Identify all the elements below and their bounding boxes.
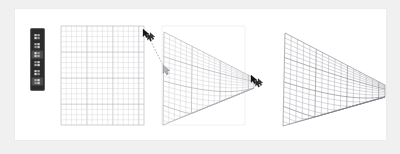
grid-tool-icon[interactable] xyxy=(37,70,39,72)
grid-line-minor-vertical xyxy=(360,72,361,104)
panel-after-graphic xyxy=(15,9,387,141)
panel-after xyxy=(15,9,387,141)
warp-tool-icon[interactable] xyxy=(37,52,39,54)
mesh-tool-icon[interactable] xyxy=(34,79,36,81)
grid-tool-icon[interactable] xyxy=(34,73,36,75)
node-tool-icon[interactable] xyxy=(37,64,39,66)
grid-line-minor-vertical xyxy=(302,43,304,121)
move-tool-icon[interactable] xyxy=(34,37,36,39)
warp-tool-icon[interactable] xyxy=(34,55,36,57)
node-tool-icon[interactable] xyxy=(34,61,36,63)
grid-tool-icon[interactable] xyxy=(34,70,36,72)
grid-line-major-vertical xyxy=(315,49,316,117)
move-tool-icon[interactable] xyxy=(37,37,39,39)
tool-palette-graphic[interactable] xyxy=(30,28,46,92)
mesh-tool-icon[interactable] xyxy=(37,79,39,81)
figure-root: Perspective mesh warp — three step seque… xyxy=(0,0,400,154)
grid-line-minor-vertical xyxy=(321,53,322,116)
transform-tool-icon[interactable] xyxy=(34,46,36,48)
tool-button-mesh[interactable] xyxy=(32,78,43,86)
tool-button-active-highlight[interactable] xyxy=(32,51,43,59)
figure-canvas xyxy=(14,8,387,141)
tool-button-warp[interactable] xyxy=(32,51,43,59)
transform-tool-icon[interactable] xyxy=(34,43,36,45)
grid-line-minor-vertical xyxy=(289,36,291,124)
grid-line-minor-vertical xyxy=(340,62,341,109)
node-tool-icon[interactable] xyxy=(34,64,36,66)
move-tool-icon[interactable] xyxy=(34,34,36,36)
grid-mesh xyxy=(283,33,385,126)
tool-button-active-highlight[interactable] xyxy=(32,78,43,86)
warp-tool-icon[interactable] xyxy=(37,55,39,57)
mesh-tool-icon[interactable] xyxy=(34,82,36,84)
move-tool-icon[interactable] xyxy=(37,34,39,36)
grid-line-minor-vertical xyxy=(353,69,354,106)
node-tool-icon[interactable] xyxy=(37,61,39,63)
mesh-tool-icon[interactable] xyxy=(37,82,39,84)
tool-palette[interactable] xyxy=(30,28,46,92)
transform-tool-icon[interactable] xyxy=(37,46,39,48)
grid-line-minor-vertical xyxy=(309,46,311,119)
transform-tool-icon[interactable] xyxy=(37,43,39,45)
grid-line-minor-vertical xyxy=(334,59,335,112)
warp-tool-icon[interactable] xyxy=(34,52,36,54)
grid-line-minor-horizontal xyxy=(285,43,385,87)
grid-tool-icon[interactable] xyxy=(37,73,39,75)
